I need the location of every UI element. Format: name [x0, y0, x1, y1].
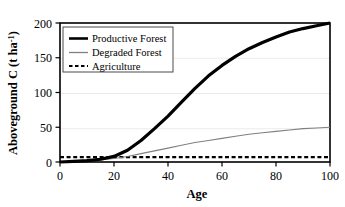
y-axis-title-main: Aboveground C (t ha [6, 42, 20, 155]
y-axis-title-superscript: -1 [6, 35, 16, 42]
x-tick-label-0: 0 [57, 169, 63, 183]
x-axis-title: Age [187, 187, 208, 201]
x-tick-label-100: 100 [321, 169, 339, 183]
y-axis-title-tail: ) [6, 31, 20, 35]
x-tick-label-40: 40 [162, 169, 174, 183]
legend-label-productive-forest: Productive Forest [92, 33, 166, 44]
y-tick-label-50: 50 [40, 121, 52, 135]
legend-label-degraded-forest: Degraded Forest [92, 47, 162, 58]
figure-container: 200 150 100 50 0 0 20 40 60 80 100 Age A… [0, 0, 345, 207]
y-tick-label-0: 0 [46, 156, 52, 170]
y-tick-label-200: 200 [34, 17, 52, 31]
y-tick-label-150: 150 [34, 51, 52, 65]
legend: Productive Forest Degraded Forest Agricu… [63, 27, 173, 72]
x-tick-label-80: 80 [270, 169, 282, 183]
y-axis-title: Aboveground C (t ha-1) [6, 31, 21, 155]
legend-label-agriculture: Agriculture [92, 61, 141, 72]
chart-canvas: 200 150 100 50 0 0 20 40 60 80 100 Age A… [0, 0, 345, 207]
y-tick-label-100: 100 [34, 86, 52, 100]
x-tick-label-20: 20 [108, 169, 120, 183]
x-tick-label-60: 60 [216, 169, 228, 183]
